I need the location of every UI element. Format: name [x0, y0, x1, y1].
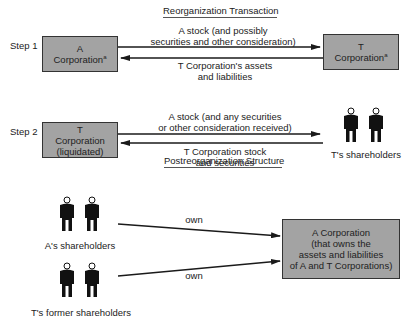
step2-label: Step 2 [10, 126, 37, 137]
step2-arrow-left-label: T Corporation stock and securities [165, 146, 285, 168]
a-corporation-post-box: A Corporation (that owns the assets and … [282, 219, 400, 279]
person-icon [60, 197, 74, 231]
footnote-marker: a [384, 52, 387, 58]
label-line: T Corporation's assets [160, 60, 290, 71]
label-line: and liabilities [160, 71, 290, 82]
box-line: (that owns the [311, 238, 371, 249]
box-line: Corporation [335, 52, 385, 63]
step1-arrow-left-label: T Corporation's assets and liabilities [160, 60, 290, 82]
label-line: and securities [165, 157, 285, 168]
person-icon [85, 197, 99, 231]
box-line-wrap: Corporationa [335, 52, 388, 63]
box-line: T [77, 124, 83, 135]
box-line: assets and liabilities [299, 249, 384, 260]
label-line: A stock (and possibly [148, 25, 298, 36]
step1-label: Step 1 [10, 40, 37, 51]
t-former-shareholders-person-icons [56, 262, 106, 298]
step2-t-corporation-box: T Corporation (liquidated) [42, 122, 118, 158]
t-shareholders-person-icons [340, 107, 390, 143]
box-line: A [77, 43, 83, 54]
a-shareholders-person-icons [56, 196, 106, 232]
label-line: A stock (and any securities [150, 111, 300, 122]
footnote-marker: a [103, 54, 106, 60]
t-former-shareholders-label: T's former shareholders [28, 307, 134, 318]
box-line: Corporation [54, 54, 104, 65]
step1-a-corporation-box: A Corporationa [42, 36, 118, 72]
box-line: A Corporation [312, 227, 370, 238]
person-icon [60, 263, 74, 297]
step1-arrow-right-label: A stock (and possibly securities and oth… [148, 25, 298, 47]
step2-arrow-right-label: A stock (and any securities or other con… [150, 111, 300, 133]
label-line: T Corporation stock [165, 146, 285, 157]
label-line: securities and other consideration) [148, 36, 298, 47]
person-icon [85, 263, 99, 297]
a-shareholders-label: A's shareholders [40, 240, 120, 251]
step1-t-corporation-box: T Corporationa [323, 34, 399, 70]
box-line: of A and T Corporations) [290, 260, 393, 271]
box-line-wrap: Corporationa [54, 54, 107, 65]
label-line: or other consideration received) [150, 122, 300, 133]
box-line: (liquidated) [57, 146, 104, 157]
box-line: T [358, 41, 364, 52]
t-shareholders-label: T's shareholders [325, 149, 407, 160]
person-icon [369, 108, 383, 142]
own-label-top: own [182, 214, 206, 225]
own-arrow-top [118, 224, 280, 236]
box-line: Corporation [55, 135, 105, 146]
own-label-bottom: own [182, 270, 206, 281]
person-icon [344, 108, 358, 142]
